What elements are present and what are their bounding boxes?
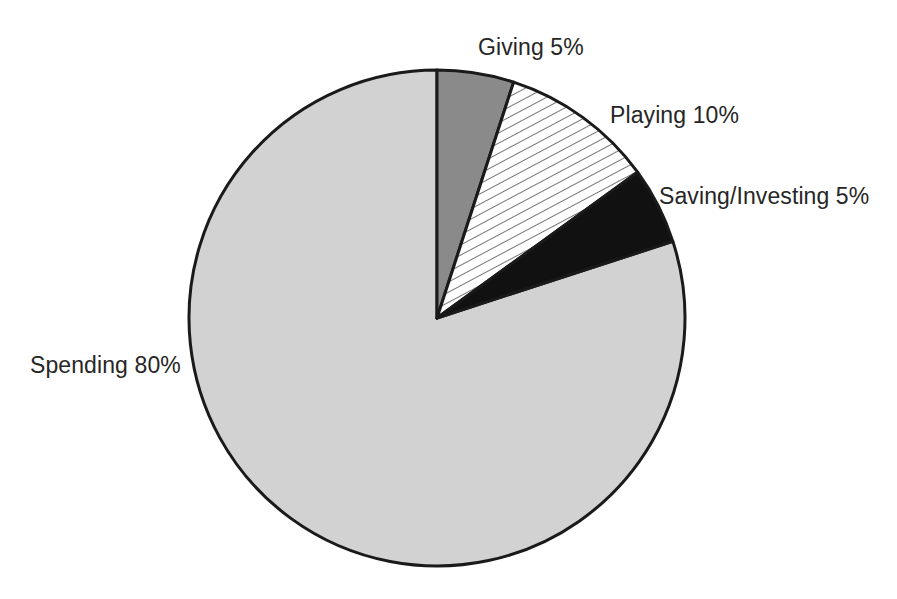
pie-chart-figure: Giving 5% Playing 10% Saving/Investing 5…: [0, 0, 897, 599]
pie-label-giving: Giving 5%: [478, 34, 584, 60]
pie-label-spending: Spending 80%: [30, 352, 181, 378]
pie-chart-svg: Giving 5% Playing 10% Saving/Investing 5…: [0, 0, 897, 599]
pie-label-saving-investing: Saving/Investing 5%: [659, 183, 869, 209]
pie-label-playing: Playing 10%: [610, 102, 739, 128]
pie-slices-group: [189, 70, 685, 566]
